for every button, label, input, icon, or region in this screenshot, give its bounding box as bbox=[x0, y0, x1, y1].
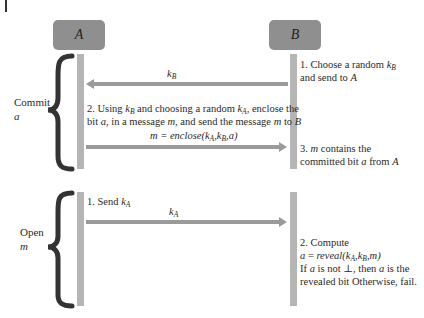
commit-step2-text: 2. Using kB and choosing a random kA, en… bbox=[87, 102, 301, 128]
open-step1-text: 1. Send kA bbox=[87, 195, 130, 208]
commit-brace-icon bbox=[48, 56, 72, 169]
message-kb-label: kB bbox=[167, 67, 176, 80]
message-enclose-formula: m = enclose(kA,kB,a) bbox=[150, 129, 237, 142]
open-brace-icon bbox=[48, 193, 72, 306]
commit-step1-text: 1. Choose a random kB and send to A bbox=[300, 58, 396, 84]
open-step2-text: 2. Compute a = reveal(kA,kB,m) If a is n… bbox=[300, 236, 417, 288]
arrow-right-icon bbox=[279, 142, 287, 152]
open-phase-label: Open m bbox=[20, 225, 44, 253]
arrow-left-icon bbox=[86, 79, 94, 89]
commit-phase-label: Commit a bbox=[14, 95, 50, 123]
commit-step3-text: 3. m contains the committed bit a from A bbox=[300, 142, 399, 168]
message-ka-label: kA bbox=[169, 205, 178, 218]
arrow-right-icon bbox=[279, 217, 287, 227]
